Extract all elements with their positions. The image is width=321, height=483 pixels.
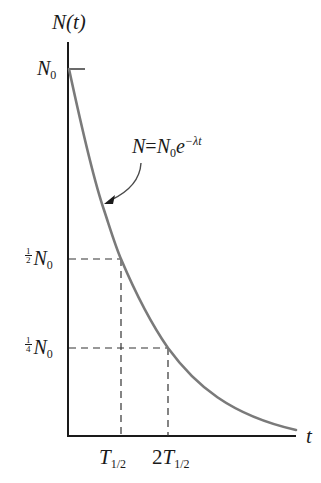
x-tick-t-half-sub: 1/2 — [111, 457, 126, 471]
x-tick-2t-half: 2T1/2 — [152, 445, 190, 472]
y-tick-quarter-sub: 0 — [47, 347, 53, 361]
eq-sign: = — [145, 135, 156, 157]
x-axis-label: t — [306, 424, 312, 449]
decay-curve — [69, 69, 296, 430]
x-tick-t-half-base: T — [99, 445, 111, 469]
eq-exp-base: e — [176, 135, 185, 157]
equation-label: N=N0e−λt — [132, 134, 202, 161]
y-tick-n0-base: N — [37, 57, 50, 79]
eq-lhs: N — [132, 135, 145, 157]
x-tick-t-half: T1/2 — [99, 445, 126, 472]
fraction-quarter: 14 — [25, 336, 32, 353]
y-axis-label: N(t) — [52, 10, 86, 35]
x-tick-2t-half-sub: 1/2 — [174, 457, 189, 471]
y-tick-quarter-base: N — [34, 336, 47, 358]
y-tick-half: 12N0 — [25, 247, 53, 273]
x-tick-2t-half-base: T — [163, 445, 175, 469]
y-tick-half-sub: 0 — [47, 258, 53, 272]
y-tick-n0-sub: 0 — [50, 68, 56, 82]
fraction-half: 12 — [25, 247, 32, 264]
y-tick-n0: N0 — [37, 57, 56, 83]
eq-base: N — [157, 135, 170, 157]
half-life-guides — [69, 259, 168, 436]
y-tick-half-base: N — [34, 247, 47, 269]
eq-exponent: −λt — [185, 134, 202, 148]
frac-den: 2 — [25, 256, 32, 264]
x-tick-2t-half-coef: 2 — [152, 445, 163, 469]
x-axis-label-text: t — [306, 424, 312, 448]
y-tick-quarter: 14N0 — [25, 336, 53, 362]
y-axis-label-text: N(t) — [52, 10, 86, 34]
annotation-arrow — [111, 163, 141, 200]
arrow-head-icon — [104, 195, 115, 204]
frac-den: 4 — [25, 345, 32, 353]
